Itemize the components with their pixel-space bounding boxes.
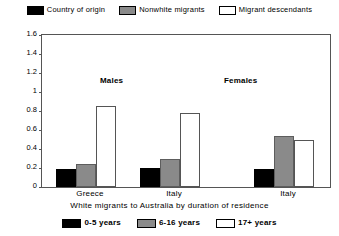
y-tick-mark xyxy=(39,187,42,188)
chart-caption: White migrants to Australia by duration … xyxy=(0,201,339,210)
bar-italy-males-0-5-years xyxy=(140,168,160,187)
y-tick-label: 1.2 xyxy=(27,68,37,76)
y-axis: 1.6 1.4 1.2 1 0.8 0.6 0.4 0.2 0 xyxy=(0,26,40,196)
y-tick-label: 1.4 xyxy=(27,49,37,57)
y-tick-label: 0 xyxy=(33,182,37,190)
legend-swatch-gray-icon xyxy=(137,219,156,228)
top-legend: Country of origin Nonwhite migrants Migr… xyxy=(0,2,339,18)
legend-swatch-gray-icon xyxy=(119,6,136,15)
x-label-italy-females: Italy xyxy=(280,189,296,198)
y-tick-label: 0.2 xyxy=(27,163,37,171)
bar-group-italy-females xyxy=(254,35,324,187)
plot-wrapper: 1.6 1.4 1.2 1 0.8 0.6 0.4 0.2 0 xyxy=(0,26,339,196)
x-label-greece: Greece xyxy=(76,189,103,198)
legend-item-country-of-origin: Country of origin xyxy=(27,6,105,15)
legend-swatch-white-icon xyxy=(216,219,235,228)
legend-item-nonwhite-migrants: Nonwhite migrants xyxy=(119,6,205,15)
legend-label: Country of origin xyxy=(47,6,105,14)
bar-italy-females-17-plus-years xyxy=(294,140,314,188)
bars xyxy=(56,35,126,187)
bars xyxy=(140,35,210,187)
legend-swatch-black-icon xyxy=(27,6,44,15)
bar-italy-females-6-16-years xyxy=(274,136,294,187)
annotation-males: Males xyxy=(100,76,123,85)
y-tick-label: 0.8 xyxy=(27,106,37,114)
legend-item-6-16-years: 6-16 years xyxy=(137,219,200,228)
legend-swatch-white-icon xyxy=(219,6,236,15)
bar-italy-females-0-5-years xyxy=(254,169,274,187)
plot-area: Males Females xyxy=(41,34,331,188)
bottom-legend: 0-5 years 6-16 years 17+ years xyxy=(0,216,339,230)
bar-greece-17-plus-years xyxy=(96,106,116,187)
legend-label: Migrant descendants xyxy=(239,6,312,14)
bar-groups xyxy=(42,35,330,187)
y-tick-label: 1 xyxy=(33,87,37,95)
x-label-italy-males: Italy xyxy=(166,189,182,198)
legend-item-migrant-descendants: Migrant descendants xyxy=(219,6,312,15)
legend-item-17-plus-years: 17+ years xyxy=(216,219,277,228)
y-tick-label: 0.4 xyxy=(27,144,37,152)
chart-figure: Country of origin Nonwhite migrants Migr… xyxy=(0,0,339,236)
y-tick-label: 0.6 xyxy=(27,125,37,133)
bars xyxy=(254,35,324,187)
legend-item-0-5-years: 0-5 years xyxy=(62,219,121,228)
legend-label: 6-16 years xyxy=(159,219,200,227)
y-tick-label: 1.6 xyxy=(27,30,37,38)
legend-label: Nonwhite migrants xyxy=(139,6,205,14)
bar-greece-6-16-years xyxy=(76,164,96,187)
bar-italy-males-6-16-years xyxy=(160,159,180,188)
bar-group-greece xyxy=(56,35,126,187)
annotation-females: Females xyxy=(224,76,257,85)
bar-greece-0-5-years xyxy=(56,169,76,187)
legend-swatch-black-icon xyxy=(62,219,81,228)
bar-italy-males-17-plus-years xyxy=(180,113,200,187)
legend-label: 0-5 years xyxy=(84,219,121,227)
legend-label: 17+ years xyxy=(238,219,277,227)
bar-group-italy-males xyxy=(140,35,210,187)
